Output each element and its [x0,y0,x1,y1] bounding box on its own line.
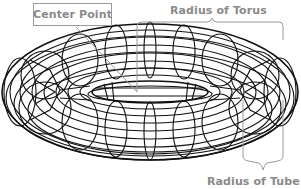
center-point-label: Center Point [33,9,112,21]
torus-diagram: Center Point Radius of Torus Radius of T… [0,0,301,189]
radius-of-tube-label: Radius of Tube [207,176,300,188]
radius-of-torus-label: Radius of Torus [170,5,267,17]
torus-wireframe [0,0,301,189]
center-point-callout: Center Point [33,3,112,26]
